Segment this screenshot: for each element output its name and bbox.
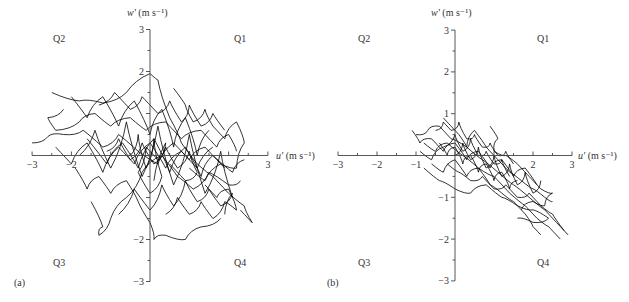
panel-b-xlabel: u′ (m s⁻¹) [578, 150, 617, 162]
panel-b-q2: Q2 [358, 33, 370, 44]
panel-b-axes: −3−2−123321−1−2−3 [333, 25, 575, 287]
panel-a-y-tick-label: 2 [139, 66, 144, 77]
panel-b-y-tick-label: 1 [444, 108, 449, 119]
panel-b-q1: Q1 [537, 33, 549, 44]
panel-a: −3−2332−2−3 w′ (m s⁻¹) u′ (m s⁻¹) Q2 Q1 … [14, 7, 315, 289]
panel-a-trace-4 [75, 168, 220, 240]
panel-b-x-tick-label: −3 [333, 159, 344, 170]
panel-b-y-tick-label: −3 [438, 275, 449, 286]
panel-a-x-tick-label: −3 [27, 159, 38, 170]
panel-a-x-tick-label: −2 [66, 159, 77, 170]
panel-a-q2: Q2 [53, 33, 65, 44]
panel-a-axes: −3−2332−2−3 [27, 24, 271, 287]
panel-b-y-tick-label: 3 [444, 25, 449, 36]
panel-b-q4: Q4 [537, 257, 549, 268]
panel-b-y-tick-label: −2 [438, 234, 449, 245]
panel-b-x-tick-label: 2 [531, 159, 536, 170]
panel-a-traces [32, 74, 252, 240]
panel-b-label: (b) [327, 277, 339, 289]
panel-a-trace-9 [79, 122, 232, 198]
panel-a-ylabel: w′ (m s⁻¹) [127, 7, 167, 19]
caption-strip [0, 296, 629, 302]
panel-a-trace-1 [52, 74, 252, 223]
panel-b-x-tick-label: 3 [570, 159, 575, 170]
panel-b-traces [412, 118, 568, 239]
panel-a-q4: Q4 [234, 257, 246, 268]
panel-b-x-tick-label: −2 [372, 159, 383, 170]
panel-b-x-tick-label: −1 [411, 159, 422, 170]
panel-b-q3: Q3 [358, 257, 370, 268]
panel-a-trace-15 [166, 185, 237, 219]
panel-b-y-tick-label: −1 [438, 192, 449, 203]
panel-a-label: (a) [14, 277, 25, 289]
panel-a-y-tick-label: 3 [139, 24, 144, 35]
figure: −3−2332−2−3 w′ (m s⁻¹) u′ (m s⁻¹) Q2 Q1 … [0, 0, 629, 302]
panel-a-q3: Q3 [53, 257, 65, 268]
panel-b-y-tick-label: 2 [444, 66, 449, 77]
panel-b: −3−2−123321−1−2−3 w′ (m s⁻¹) u′ (m s⁻¹) … [327, 7, 617, 289]
panel-a-y-tick-label: −2 [133, 234, 144, 245]
panel-b-ylabel: w′ (m s⁻¹) [431, 7, 471, 19]
panel-a-trace-6 [174, 88, 245, 180]
panel-a-q1: Q1 [234, 33, 246, 44]
panel-a-trace-10 [119, 181, 233, 215]
panel-a-y-tick-label: −3 [133, 276, 144, 287]
panel-a-xlabel: u′ (m s⁻¹) [276, 150, 315, 162]
panel-a-x-tick-label: 3 [265, 159, 270, 170]
